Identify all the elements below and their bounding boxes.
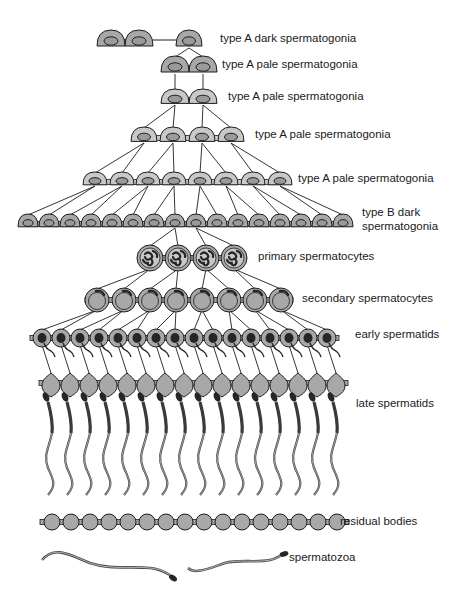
primary-spermatocytes-cell: [165, 245, 191, 271]
tail: [188, 556, 280, 571]
lineage-line: [251, 345, 260, 373]
lineage-line: [61, 310, 97, 330]
label-secondary-spermatocytes: secondary spermatocytes: [302, 291, 433, 305]
residual-bodies-cell: [101, 514, 117, 530]
nucleus: [57, 333, 66, 343]
lineage-line: [124, 269, 150, 289]
b-dark-16cells-cell: [312, 214, 332, 227]
lineage-line: [175, 310, 176, 330]
label-spermatozoa: spermatozoa: [289, 550, 355, 564]
late-spermatids-cell: [117, 373, 136, 495]
label-early-spermatids: early spermatids: [355, 327, 439, 341]
nucleus: [209, 333, 218, 343]
late-spermatids-cell: [326, 373, 345, 495]
lineage-line: [173, 143, 174, 173]
a-pale-8cells-cell: [188, 172, 212, 185]
midpiece: [67, 402, 71, 433]
lineage-line: [99, 345, 108, 373]
early-spermatids-cell: [204, 329, 226, 357]
a-pale-4cells-cell: [160, 127, 186, 141]
a-pale-2cells-b: [161, 89, 217, 103]
a-pale-8cells-cell: [268, 172, 292, 185]
lineage-line: [174, 186, 175, 215]
a-pale-4cells-cell: [189, 127, 215, 141]
label-residual-bodies: residual bodies: [340, 514, 417, 528]
b-dark-16cells-cell: [270, 214, 290, 227]
late-spermatids-cell: [60, 373, 79, 495]
b-dark-16cells-cell: [102, 214, 122, 227]
lineage-line: [28, 186, 95, 215]
sperm-head: [279, 550, 289, 557]
a-dark-pair-cell: [125, 30, 153, 46]
label-late-spermatids: late spermatids: [356, 396, 434, 410]
lineage-line: [253, 186, 301, 215]
lineage-line: [255, 310, 270, 330]
lineage-line: [194, 345, 203, 373]
nucleus: [228, 333, 237, 343]
spermatozoon-right: [188, 550, 289, 571]
cytoplasmic-bridges: [28, 40, 349, 525]
lineage-line: [232, 345, 241, 373]
midpiece: [333, 402, 337, 433]
lineage-line: [229, 310, 251, 330]
b-dark-16cells-cell: [18, 214, 38, 227]
lineage-line: [226, 186, 238, 215]
midpiece: [181, 402, 185, 433]
a-dark-pair: [97, 30, 153, 46]
a-pale-2cells-b-cell: [189, 89, 217, 103]
residual-bodies-cell: [234, 514, 250, 530]
early-spermatids-cell: [261, 329, 283, 357]
early-spermatids-cell: [52, 329, 74, 357]
nucleus: [190, 333, 199, 343]
early-spermatids-cell: [166, 329, 188, 357]
lineage-line: [194, 310, 202, 330]
lineage-line: [226, 186, 259, 215]
lineage-line: [175, 228, 178, 246]
b-dark-16cells-cell: [123, 214, 143, 227]
late-spermatids-cell: [250, 373, 269, 495]
secondary-spermatocytes-cell: [138, 288, 162, 312]
a-pale-4cells-cell: [131, 127, 157, 141]
midpiece: [219, 402, 223, 433]
early-spermatids-cell: [223, 329, 245, 357]
lineage-line: [42, 345, 51, 373]
residual-bodies-cell: [253, 514, 269, 530]
lineage-line: [173, 105, 175, 128]
secondary-spermatocytes-cell: [269, 288, 293, 312]
label-type-a-dark: type A dark spermatogonia: [220, 31, 356, 45]
lineage-line: [95, 143, 144, 173]
lineage-line: [175, 345, 184, 373]
early-spermatids-cell: [299, 329, 321, 357]
midpiece: [200, 402, 204, 433]
lineage-line: [150, 228, 175, 246]
lineage-line: [97, 269, 150, 289]
spermatozoa-group: [42, 550, 289, 582]
a-pale-8cells-cell: [83, 172, 107, 185]
midpiece: [257, 402, 261, 433]
lineage-line: [231, 143, 253, 173]
late-spermatids-cell: [288, 373, 307, 495]
label-type-a-pale-2: type A pale spermatogonia: [228, 89, 364, 103]
a-pale-4cells-cell: [218, 127, 244, 141]
early-spermatids-cell: [109, 329, 131, 357]
cell-rows: [18, 30, 353, 530]
lineage-line: [229, 310, 232, 330]
lineage-line: [308, 345, 317, 373]
lineage-line: [148, 143, 173, 173]
primary-spermatocytes-cell: [193, 245, 219, 271]
a-pale-8cells-cell: [110, 172, 134, 185]
lineage-line: [42, 310, 97, 330]
nucleus: [133, 333, 142, 343]
residual-bodies-cell: [82, 514, 98, 530]
late-spermatids: [41, 373, 345, 495]
residual-bodies-cell: [63, 514, 79, 530]
b-dark-16cells-cell: [144, 214, 164, 227]
late-spermatids-cell: [231, 373, 250, 495]
midpiece: [238, 402, 242, 433]
lineage-line: [156, 310, 176, 330]
residual-bodies-cell: [44, 514, 60, 530]
early-spermatids-cell: [318, 329, 340, 357]
b-dark-16cells-cell: [39, 214, 59, 227]
residual-bodies-cell: [120, 514, 136, 530]
lineage-line: [154, 186, 174, 215]
